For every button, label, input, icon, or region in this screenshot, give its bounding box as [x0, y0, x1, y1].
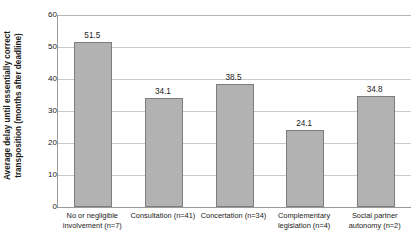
y-tick-label-0: 0 — [41, 203, 57, 211]
x-axis-label: No or negligibleinvolvement (n=7) — [57, 211, 128, 230]
x-axis-label-line: Complementary — [269, 211, 340, 221]
y-axis-title: Average delay until essentially correct … — [0, 0, 26, 210]
plot-area — [57, 15, 411, 208]
y-axis-title-line-2: transposition (months after deadline) — [13, 31, 24, 180]
gridline-60 — [58, 15, 411, 16]
x-axis-label: Consultation (n=41) — [128, 211, 199, 221]
bar-value-label: 24.1 — [269, 119, 340, 128]
x-axis-label-line: legislation (n=4) — [269, 221, 340, 231]
bar — [216, 84, 254, 207]
y-tick-label-20: 20 — [41, 139, 57, 147]
bar-value-label: 34.8 — [339, 85, 410, 94]
y-axis-title-line-1: Average delay until essentially correct — [3, 31, 14, 180]
bar-value-label: 38.5 — [198, 73, 269, 82]
bar — [286, 130, 324, 207]
bar — [74, 42, 112, 207]
bar-value-label: 51.5 — [57, 31, 128, 40]
y-tick-label-40: 40 — [41, 75, 57, 83]
y-axis-ticks: 0102030405060 — [33, 0, 57, 240]
x-axis-label-line: Consultation (n=41) — [128, 211, 199, 221]
bar — [357, 96, 395, 207]
bar-value-label: 34.1 — [128, 87, 199, 96]
x-axis-label-line: autonomy (n=2) — [339, 221, 410, 231]
bar — [145, 98, 183, 207]
x-axis-label: Complementarylegislation (n=4) — [269, 211, 340, 230]
y-tick-label-60: 60 — [41, 11, 57, 19]
y-tick-label-10: 10 — [41, 171, 57, 179]
x-axis-label: Social partnerautonomy (n=2) — [339, 211, 410, 230]
x-axis-label-line: Concertation (n=34) — [198, 211, 269, 221]
x-axis-label: Concertation (n=34) — [198, 211, 269, 221]
bar-chart: Average delay until essentially correct … — [0, 0, 417, 240]
x-axis-label-line: Social partner — [339, 211, 410, 221]
y-tick-label-30: 30 — [41, 107, 57, 115]
y-tick-label-50: 50 — [41, 43, 57, 51]
x-axis-label-line: No or negligible — [57, 211, 128, 221]
x-axis-label-line: involvement (n=7) — [57, 221, 128, 231]
